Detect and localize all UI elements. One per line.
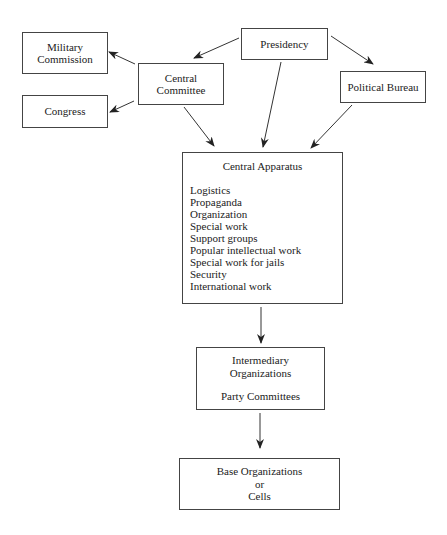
node-label-line: or: [255, 478, 264, 491]
arrow-central-committee-to-central-apparatus: [184, 107, 214, 146]
arrow-central-committee-to-congress: [110, 101, 134, 112]
node-label: Congress: [45, 105, 86, 118]
department-item: Support groups: [190, 232, 342, 244]
department-list: Logistics Propaganda Organization Specia…: [183, 184, 342, 292]
node-label-line: Central: [165, 72, 197, 85]
department-item: Organization: [190, 208, 342, 220]
node-presidency: Presidency: [241, 28, 328, 60]
arrow-central-committee-to-military-commission: [109, 52, 135, 64]
node-central-apparatus: Central Apparatus Logistics Propaganda O…: [182, 152, 343, 304]
node-label-line: Organizations: [230, 367, 292, 380]
department-item: International work: [190, 280, 342, 292]
arrow-political-bureau-to-central-apparatus: [311, 105, 352, 148]
arrow-presidency-to-central-committee: [194, 38, 239, 58]
arrow-presidency-to-political-bureau: [331, 36, 373, 64]
node-label: Presidency: [260, 38, 308, 51]
node-political-bureau: Political Bureau: [340, 71, 426, 103]
node-label: Political Bureau: [347, 81, 418, 94]
node-intermediary-organizations: Intermediary Organizations Party Committ…: [196, 347, 325, 410]
node-label-line: Commission: [37, 53, 93, 66]
department-item: Special work for jails: [190, 256, 342, 268]
department-item: Popular intellectual work: [190, 244, 342, 256]
node-central-committee: Central Committee: [138, 63, 224, 105]
node-title: Central Apparatus: [183, 160, 342, 173]
arrow-presidency-to-central-apparatus: [263, 62, 281, 147]
node-base-organizations: Base Organizations or Cells: [179, 458, 340, 510]
department-item: Special work: [190, 220, 342, 232]
node-label-line: Base Organizations: [217, 465, 303, 478]
node-label-line: Intermediary: [232, 354, 289, 367]
node-label-line: Cells: [248, 490, 271, 503]
department-item: Propaganda: [190, 196, 342, 208]
node-label-line: Military: [47, 41, 83, 54]
node-military-commission: Military Commission: [22, 32, 108, 74]
node-label-line: Committee: [157, 84, 206, 97]
node-congress: Congress: [22, 95, 108, 128]
department-item: Security: [190, 268, 342, 280]
department-item: Logistics: [190, 184, 342, 196]
node-sublabel: Party Committees: [221, 390, 300, 403]
